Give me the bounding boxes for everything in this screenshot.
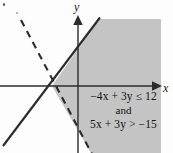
- inequality-system-annotation: −4x + 3y ≤ 12 and 5x + 3y > −15: [76, 90, 171, 131]
- inequality-line-2: 5x + 3y > −15: [76, 118, 171, 132]
- inequality-1-text: −4x + 3y ≤ 12: [90, 90, 157, 102]
- y-axis-label: y: [74, 1, 79, 13]
- scan-speck-secondary-icon: [16, 12, 18, 14]
- inequality-line-1: −4x + 3y ≤ 12: [76, 90, 171, 104]
- inequality-2-text: 5x + 3y > −15: [90, 118, 157, 130]
- inequality-graph-figure: y x −4x + 3y ≤ 12 and 5x + 3y > −15: [0, 0, 173, 153]
- conjunction-and: and: [76, 104, 171, 117]
- scan-speck-icon: [3, 3, 5, 6]
